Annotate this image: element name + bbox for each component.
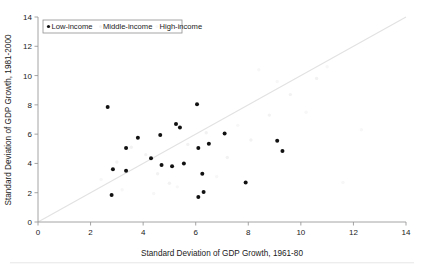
- data-point-low-income: [110, 193, 114, 197]
- series-points-middle-income: [115, 77, 318, 185]
- data-point-middle-income: [186, 143, 189, 146]
- data-point-low-income: [280, 149, 284, 153]
- scatter-plot: 02468101214 02468101214 Standard Deviati…: [0, 0, 424, 267]
- legend-marker-low-income: [47, 25, 50, 28]
- y-tick-label: 2: [28, 189, 33, 198]
- chart-figure: 02468101214 02468101214 Standard Deviati…: [0, 0, 424, 267]
- data-point-high-income: [276, 80, 279, 83]
- data-point-low-income: [174, 122, 178, 126]
- x-axis-ticks: 02468101214: [36, 222, 411, 237]
- series-points-high-income: [99, 65, 363, 195]
- legend-label-low-income: Low-income: [52, 22, 93, 31]
- data-point-low-income: [160, 163, 164, 167]
- data-point-low-income: [275, 139, 279, 143]
- data-point-low-income: [136, 136, 140, 140]
- y-tick-label: 10: [23, 72, 32, 81]
- data-point-low-income: [196, 195, 200, 199]
- y-tick-label: 4: [28, 159, 33, 168]
- data-point-low-income: [106, 105, 110, 109]
- legend-label-middle-income: Middle-income: [103, 22, 152, 31]
- data-point-middle-income: [115, 160, 118, 163]
- data-point-low-income: [158, 133, 162, 137]
- data-point-middle-income: [130, 146, 133, 149]
- data-point-middle-income: [156, 172, 159, 175]
- data-point-low-income: [196, 146, 200, 150]
- y-tick-label: 12: [23, 42, 32, 51]
- x-tick-label: 12: [349, 228, 358, 237]
- data-point-low-income: [124, 146, 128, 150]
- page-scan-artifact: [10, 262, 414, 263]
- data-point-low-income: [207, 142, 211, 146]
- data-point-middle-income: [315, 77, 318, 80]
- data-point-high-income: [99, 178, 102, 181]
- data-point-low-income: [182, 161, 186, 165]
- x-tick-label: 2: [88, 228, 93, 237]
- data-point-high-income: [236, 124, 239, 127]
- data-point-high-income: [120, 188, 123, 191]
- x-tick-label: 6: [193, 228, 198, 237]
- data-point-high-income: [325, 65, 328, 68]
- y-tick-label: 14: [23, 13, 32, 22]
- data-point-middle-income: [168, 181, 171, 184]
- data-point-low-income: [149, 156, 153, 160]
- reference-diagonal-line: [38, 17, 406, 222]
- data-point-high-income: [360, 128, 363, 131]
- data-point-low-income: [223, 131, 227, 135]
- data-point-high-income: [304, 110, 307, 113]
- data-point-high-income: [152, 192, 155, 195]
- legend[interactable]: Low-income Middle-income High-income: [43, 20, 202, 33]
- data-point-low-income: [195, 102, 199, 106]
- legend-marker-high-income: [155, 25, 158, 28]
- series-points-low-income: [106, 102, 285, 199]
- data-point-middle-income: [226, 156, 229, 159]
- data-point-high-income: [257, 68, 260, 71]
- data-point-low-income: [170, 164, 174, 168]
- data-point-high-income: [341, 181, 344, 184]
- data-point-middle-income: [249, 138, 252, 141]
- data-point-middle-income: [144, 153, 147, 156]
- data-point-middle-income: [205, 131, 208, 134]
- x-tick-label: 14: [402, 228, 411, 237]
- data-point-low-income: [178, 126, 182, 130]
- data-point-middle-income: [268, 113, 271, 116]
- x-tick-label: 8: [246, 228, 251, 237]
- y-tick-label: 0: [28, 218, 33, 227]
- legend-marker-middle-income: [99, 25, 102, 28]
- data-point-high-income: [215, 175, 218, 178]
- data-point-low-income: [200, 172, 204, 176]
- data-point-low-income: [124, 169, 128, 173]
- y-tick-label: 6: [28, 130, 33, 139]
- diagonal-45-line: [38, 17, 406, 222]
- x-tick-label: 0: [36, 228, 41, 237]
- data-point-low-income: [244, 180, 248, 184]
- y-axis-title: Standard Deviation of GDP Growth, 1981-2…: [4, 34, 13, 205]
- data-point-low-income: [111, 167, 115, 171]
- y-tick-label: 8: [28, 101, 33, 110]
- data-point-high-income: [176, 185, 179, 188]
- data-point-middle-income: [289, 93, 292, 96]
- x-tick-label: 10: [296, 228, 305, 237]
- x-tick-label: 4: [141, 228, 146, 237]
- data-point-low-income: [202, 190, 206, 194]
- x-axis-title: Standard Deviation of GDP Growth, 1961-8…: [141, 249, 303, 258]
- y-axis-ticks: 02468101214: [23, 13, 38, 227]
- legend-label-high-income: High-income: [160, 22, 203, 31]
